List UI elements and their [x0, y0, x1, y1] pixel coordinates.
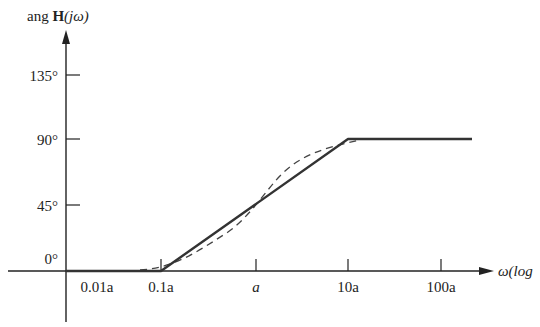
x-tick-label-10a: 10a: [337, 279, 359, 295]
x-tick-label-0.1a: 0.1a: [148, 279, 174, 295]
y-axis-arrow-icon: [62, 30, 70, 44]
exact-phase-curve: [140, 140, 360, 270]
x-tick-label-0.01a: 0.01a: [81, 279, 114, 295]
y-tick-label-0: 0°: [45, 251, 59, 267]
y-axis-label: ang H(jω): [27, 8, 89, 25]
x-axis-arrow-icon: [479, 267, 494, 275]
y-ticks: [66, 75, 80, 205]
x-axis-label: ω(log: [498, 263, 533, 280]
x-ticks: [161, 259, 441, 271]
asymptotic-phase-line: [66, 139, 472, 271]
x-tick-label-a: a: [252, 279, 260, 295]
bode-phase-plot: ang H(jω) ω(log 135° 90° 45° 0° 0.01a 0.…: [0, 0, 540, 327]
x-tick-label-100a: 100a: [426, 279, 456, 295]
y-tick-label-45: 45°: [37, 198, 58, 214]
y-tick-label-135: 135°: [30, 68, 59, 84]
y-tick-label-90: 90°: [37, 132, 58, 148]
